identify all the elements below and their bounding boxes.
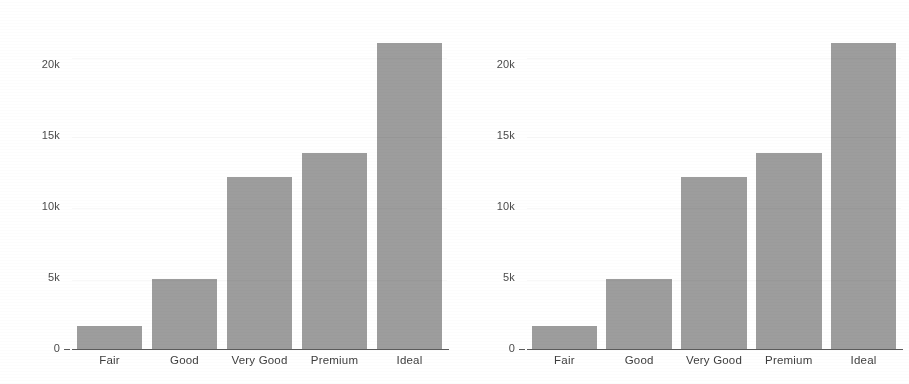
y-axis-tick-mark: [64, 349, 70, 350]
x-axis-category-label: Very Good: [677, 354, 752, 366]
bar: [681, 177, 746, 349]
x-axis-line: [527, 349, 903, 350]
x-axis-category-label: Premium: [751, 354, 826, 366]
x-axis-line: [72, 349, 449, 350]
y-axis-tick-label: 20k: [467, 58, 515, 70]
y-axis-tick-label: 20k: [12, 58, 60, 70]
y-axis-tick-label: 5k: [12, 271, 60, 283]
bar: [227, 177, 293, 349]
chart-panel-left: 05k10k15k20kFairGoodVery GoodPremiumIdea…: [0, 0, 455, 384]
y-axis-tick-label: 0: [467, 342, 515, 354]
y-axis-tick-label: 15k: [467, 129, 515, 141]
bar: [831, 43, 896, 349]
x-axis-category-label: Good: [602, 354, 677, 366]
bar: [377, 43, 443, 349]
y-axis-tick-label: 0: [12, 342, 60, 354]
y-axis-tick-mark: [519, 349, 525, 350]
x-axis-category-label: Fair: [72, 354, 147, 366]
bar: [302, 153, 368, 349]
figure-root: 05k10k15k20kFairGoodVery GoodPremiumIdea…: [0, 0, 909, 384]
y-axis-tick-label: 10k: [12, 200, 60, 212]
y-axis-tick-label: 5k: [467, 271, 515, 283]
bar: [77, 326, 143, 349]
bar: [532, 326, 597, 349]
bar: [152, 279, 218, 349]
x-axis-category-label: Fair: [527, 354, 602, 366]
y-axis-tick-label: 10k: [467, 200, 515, 212]
x-axis-category-label: Very Good: [222, 354, 297, 366]
bar: [756, 153, 821, 349]
x-axis-category-label: Premium: [297, 354, 372, 366]
bar: [606, 279, 671, 349]
y-axis-tick-label: 15k: [12, 129, 60, 141]
x-axis-category-label: Ideal: [826, 354, 901, 366]
x-axis-category-label: Ideal: [372, 354, 447, 366]
x-axis-category-label: Good: [147, 354, 222, 366]
chart-panel-right: 05k10k15k20kFairGoodVery GoodPremiumIdea…: [455, 0, 909, 384]
